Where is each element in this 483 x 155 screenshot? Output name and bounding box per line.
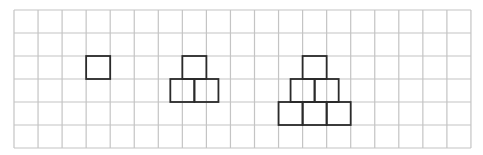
outlined-square xyxy=(303,56,327,79)
figure-1-single-square xyxy=(86,56,110,79)
outlined-square xyxy=(279,102,303,125)
outlined-square xyxy=(303,102,327,125)
outlined-square xyxy=(327,102,351,125)
background-grid xyxy=(14,10,471,148)
outlined-square xyxy=(182,56,206,79)
figure-2-three-squares xyxy=(170,56,218,102)
figure-3-six-squares xyxy=(279,56,351,125)
square-figures xyxy=(86,56,351,125)
outlined-square xyxy=(86,56,110,79)
pattern-grid-diagram xyxy=(0,0,483,155)
grid-canvas xyxy=(0,0,483,155)
